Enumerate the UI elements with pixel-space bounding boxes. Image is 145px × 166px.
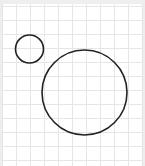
- diagram-frame: [0, 0, 145, 166]
- shapes-layer: [16, 35, 128, 135]
- grid-lines: [2, 4, 143, 166]
- canvas-svg: [2, 4, 143, 166]
- drawing-canvas[interactable]: [2, 4, 143, 166]
